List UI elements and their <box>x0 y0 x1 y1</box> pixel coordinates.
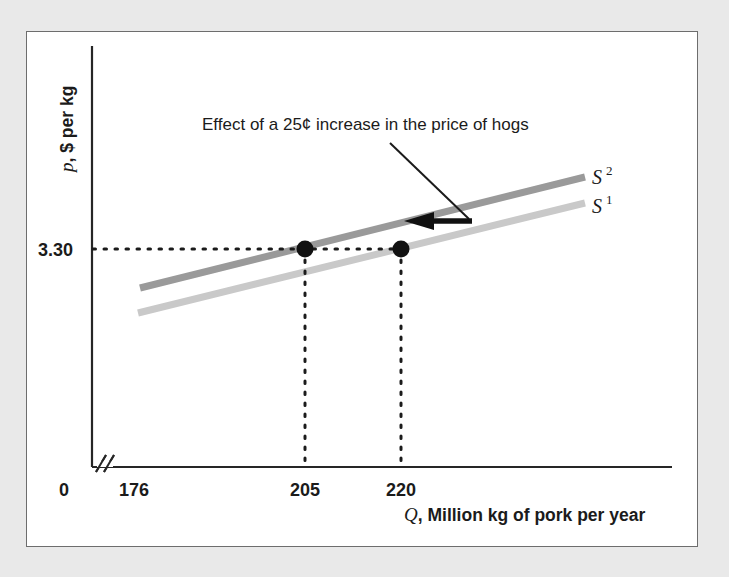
svg-text:Q, Million kg of pork per year: Q, Million kg of pork per year <box>404 504 645 525</box>
y-axis-title-rest: , $ per kg <box>57 86 77 163</box>
annotation-leader-line <box>390 143 469 219</box>
svg-text:p, $ per kg: p, $ per kg <box>56 86 77 174</box>
x-tick-label-176: 176 <box>119 480 149 500</box>
supply-curve-s2 <box>140 177 585 288</box>
x-axis-title-symbol: Q <box>404 504 418 525</box>
y-axis-title: p, $ per kg <box>56 86 77 174</box>
curve-label-s1-superscript: 1 <box>606 192 613 207</box>
x-tick-label-0: 0 <box>59 480 69 500</box>
x-tick-label-220: 220 <box>386 480 416 500</box>
supply-shift-chart: Effect of a 25¢ increase in the price of… <box>0 0 729 577</box>
curve-label-s1-base: S <box>592 195 602 217</box>
annotation-label: Effect of a 25¢ increase in the price of… <box>202 115 529 134</box>
y-axis-title-symbol: p <box>56 163 77 175</box>
figure-root: Effect of a 25¢ increase in the price of… <box>0 0 729 577</box>
curve-label-s2-base: S <box>592 166 602 188</box>
x-axis-title: Q, Million kg of pork per year <box>404 504 645 525</box>
data-point-marker-205 <box>297 241 314 258</box>
curve-label-s2: S 2 <box>592 163 613 188</box>
x-tick-label-205: 205 <box>290 480 320 500</box>
curve-label-s1: S 1 <box>592 192 613 217</box>
curve-label-s2-superscript: 2 <box>606 163 613 178</box>
supply-curve-s1 <box>138 203 585 313</box>
axis-break-mark <box>96 455 114 472</box>
data-point-marker-220 <box>393 241 410 258</box>
x-axis-title-rest: , Million kg of pork per year <box>418 505 646 525</box>
y-tick-label-330: 3.30 <box>38 240 73 260</box>
